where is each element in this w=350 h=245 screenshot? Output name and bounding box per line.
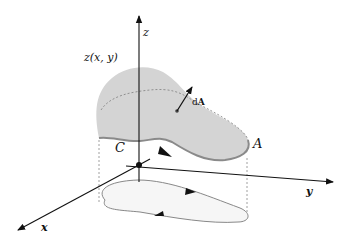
y-axis-label: y [305, 185, 314, 198]
projected-region [102, 180, 248, 222]
boundary-curve-label: C [115, 140, 125, 155]
boundary-arrow-icon [158, 146, 172, 157]
surface-label: A [252, 136, 262, 151]
origin-point [136, 162, 142, 168]
area-element-label: dA [192, 97, 206, 107]
diagram-canvas: z z(x, y) x y C A dA [0, 0, 350, 245]
y-axis [126, 166, 333, 182]
z-axis-label: z [142, 26, 149, 39]
surface-function-label: z(x, y) [83, 51, 118, 64]
surface-integral-diagram: z z(x, y) x y C A dA [0, 0, 350, 245]
x-axis-label: x [40, 221, 48, 234]
